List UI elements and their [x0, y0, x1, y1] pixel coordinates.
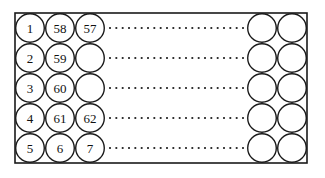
left-group-cell-r5-c3: 7	[76, 134, 105, 163]
ellipsis-dot	[166, 27, 168, 29]
right-group-cell-r5-c2	[278, 134, 307, 163]
left-group-cell-r3-c1: 3	[16, 74, 45, 103]
left-group-cell-r4-c2: 61	[46, 104, 75, 133]
cell-circle	[248, 74, 277, 103]
ellipsis-dot	[242, 87, 244, 89]
ellipsis-dot	[122, 87, 124, 89]
ellipsis-dot	[217, 57, 219, 59]
ellipsis-dot	[204, 147, 206, 149]
left-group-cell-r1-c2: 58	[46, 14, 75, 43]
ellipsis-dot	[198, 117, 200, 119]
ellipsis-dot	[128, 87, 130, 89]
ellipsis-dot	[122, 147, 124, 149]
left-group-cell-r2-c1: 2	[16, 44, 45, 73]
ellipsis-dot	[229, 87, 231, 89]
ellipsis-dot	[172, 147, 174, 149]
ellipsis-dot	[185, 27, 187, 29]
cell-circle	[278, 44, 307, 73]
ellipsis-dot	[141, 117, 143, 119]
ellipsis-dot	[242, 27, 244, 29]
ellipsis-dot	[204, 27, 206, 29]
left-group-cell-r3-c3	[76, 74, 105, 103]
ellipsis-dot	[147, 117, 149, 119]
ellipsis-dot	[153, 57, 155, 59]
ellipsis-row-3	[109, 87, 244, 89]
ellipsis-dot	[191, 27, 193, 29]
ellipsis-dot	[236, 147, 238, 149]
ellipsis-dot	[134, 87, 136, 89]
ellipsis-dot	[141, 27, 143, 29]
ellipsis-dot	[122, 27, 124, 29]
ellipsis-dot	[229, 117, 231, 119]
cell-label: 5	[27, 141, 34, 156]
circle-grid-figure: 1585725936046162567	[0, 0, 325, 178]
ellipsis-dot	[210, 117, 212, 119]
ellipsis-row-1	[109, 27, 244, 29]
ellipsis-dot	[210, 147, 212, 149]
ellipsis-dot	[147, 147, 149, 149]
cell-label: 59	[54, 51, 67, 66]
ellipsis-dot	[128, 27, 130, 29]
ellipsis-dot	[223, 27, 225, 29]
ellipsis-dot	[141, 87, 143, 89]
ellipsis-dot	[210, 57, 212, 59]
ellipsis-dot	[153, 87, 155, 89]
ellipsis-dot	[109, 87, 111, 89]
ellipsis-dot	[204, 57, 206, 59]
ellipsis-dot	[147, 57, 149, 59]
ellipsis-dot	[122, 117, 124, 119]
ellipsis-dot	[236, 87, 238, 89]
ellipsis-dot	[115, 87, 117, 89]
cell-circle	[278, 104, 307, 133]
ellipsis-dot	[166, 57, 168, 59]
ellipsis-dot	[109, 57, 111, 59]
cell-circle	[76, 44, 105, 73]
ellipsis-dot	[153, 147, 155, 149]
cell-label: 57	[84, 21, 98, 36]
ellipsis-dot	[217, 147, 219, 149]
right-group-cell-r2-c2	[278, 44, 307, 73]
cell-label: 7	[87, 141, 94, 156]
ellipsis-dot	[160, 87, 162, 89]
ellipsis-dot	[128, 57, 130, 59]
cell-circle	[278, 134, 307, 163]
cell-label: 60	[54, 81, 67, 96]
ellipsis-dot	[160, 147, 162, 149]
ellipsis-dot	[141, 57, 143, 59]
left-group-cell-r4-c1: 4	[16, 104, 45, 133]
ellipsis-dot	[185, 147, 187, 149]
ellipsis-dot	[134, 27, 136, 29]
left-group-cell-r5-c2: 6	[46, 134, 75, 163]
ellipsis-dot	[166, 147, 168, 149]
ellipsis-dot	[204, 87, 206, 89]
ellipsis-dot	[242, 57, 244, 59]
ellipsis-dot	[147, 27, 149, 29]
ellipsis-dot	[223, 117, 225, 119]
ellipsis-dot	[172, 27, 174, 29]
ellipsis-dot	[160, 27, 162, 29]
ellipsis-dot	[172, 57, 174, 59]
left-group-cell-r5-c1: 5	[16, 134, 45, 163]
ellipsis-dot	[179, 27, 181, 29]
ellipsis-dot	[179, 87, 181, 89]
ellipsis-dot	[109, 27, 111, 29]
ellipsis-dot	[229, 57, 231, 59]
ellipsis-dot	[153, 117, 155, 119]
ellipsis-row-5	[109, 147, 244, 149]
ellipsis-dot	[160, 117, 162, 119]
ellipsis-dot	[198, 27, 200, 29]
ellipsis-dot	[109, 147, 111, 149]
ellipsis-dot	[134, 117, 136, 119]
right-group-cell-r1-c1	[248, 14, 277, 43]
cell-label: 61	[54, 111, 67, 126]
ellipsis-dot	[134, 147, 136, 149]
ellipsis-dot	[179, 147, 181, 149]
ellipsis-dot	[223, 57, 225, 59]
left-group-cell-r2-c2: 59	[46, 44, 75, 73]
cell-label: 62	[84, 111, 97, 126]
right-group-cell-r3-c2	[278, 74, 307, 103]
ellipsis-dot	[236, 57, 238, 59]
ellipsis-dot	[217, 87, 219, 89]
right-group-cell-r2-c1	[248, 44, 277, 73]
ellipsis-dot	[217, 27, 219, 29]
